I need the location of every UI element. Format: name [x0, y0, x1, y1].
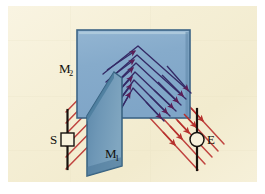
- label-e: E: [207, 132, 215, 147]
- mirror-m2-top-highlight: [79, 32, 188, 35]
- label-s: S: [50, 132, 57, 147]
- optics-figure-root: M 2 M 1 S E: [0, 0, 265, 194]
- optics-diagram-svg: M 2 M 1 S E: [0, 0, 265, 194]
- label-m2-subscript: 2: [69, 68, 73, 78]
- mirror-m2-right-shadow: [186, 32, 189, 117]
- source-slit-square: [61, 133, 74, 146]
- eye-circle: [190, 133, 204, 147]
- label-m1-subscript: 1: [115, 153, 119, 163]
